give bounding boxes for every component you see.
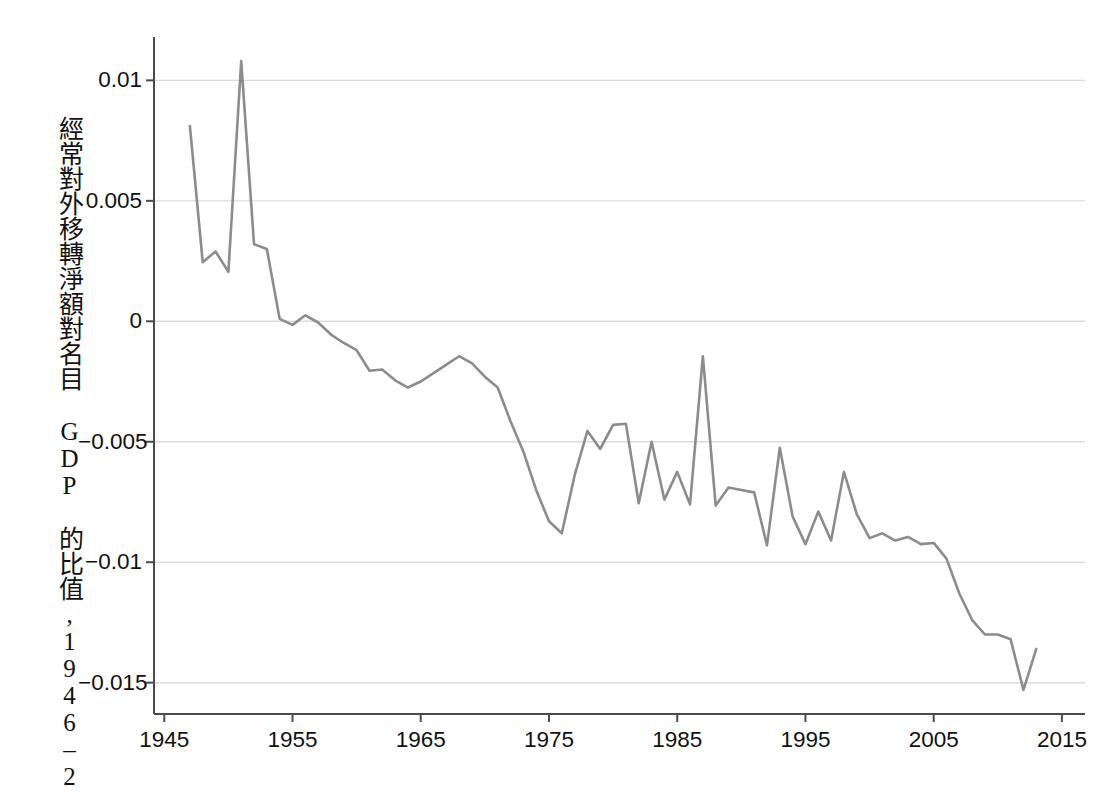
chart-figure: 經常對外移轉淨額對名目 GDP 的比值,1946–2014 0.010.0050…: [0, 0, 1119, 792]
y-axis-ticks: [146, 80, 154, 682]
axis-spines: [154, 37, 1085, 714]
x-tick-label: 1955: [247, 727, 337, 753]
line-chart-plot: [0, 0, 1119, 792]
y-tick-label: −0.005: [78, 429, 142, 455]
y-tick-label: 0.01: [78, 67, 142, 93]
x-axis-ticks: [164, 714, 1062, 722]
y-tick-label: −0.01: [78, 549, 142, 575]
x-tick-label: 1945: [119, 727, 209, 753]
x-tick-label: 2005: [889, 727, 979, 753]
x-tick-label: 1975: [504, 727, 594, 753]
y-tick-label: −0.015: [78, 670, 142, 696]
data-series-line: [190, 61, 1036, 690]
x-tick-label: 1985: [632, 727, 722, 753]
gridlines: [154, 80, 1085, 682]
y-tick-label: 0: [78, 308, 142, 334]
x-tick-label: 2015: [1017, 727, 1107, 753]
y-tick-label: 0.005: [78, 188, 142, 214]
x-tick-label: 1995: [760, 727, 850, 753]
x-tick-label: 1965: [376, 727, 466, 753]
